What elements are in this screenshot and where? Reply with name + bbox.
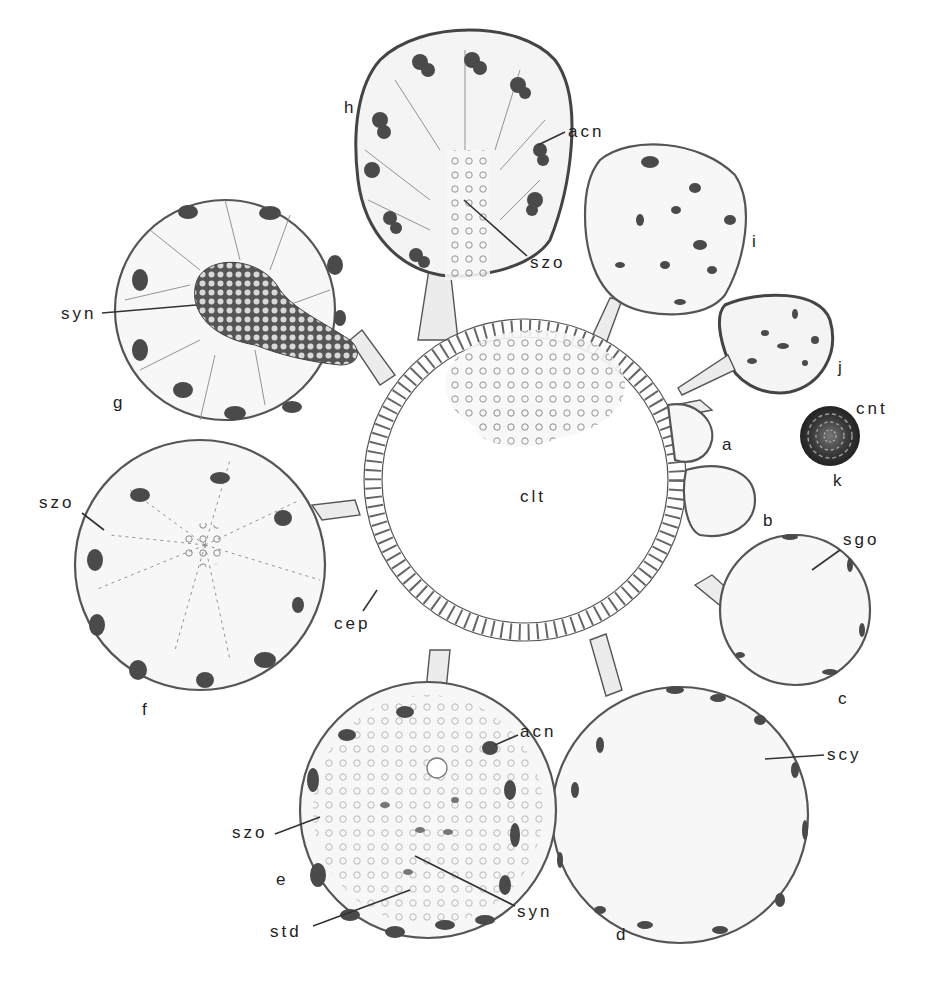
label-acn-e: acn — [520, 722, 556, 741]
label-lobe-g: g — [113, 393, 125, 412]
label-acn-h: acn — [568, 122, 604, 141]
label-syn-g: syn — [61, 304, 96, 323]
label-lobe-k: k — [833, 471, 845, 490]
label-syn-e: syn — [517, 902, 552, 921]
label-lobe-b: b — [763, 511, 775, 530]
lobe-f — [75, 440, 325, 690]
label-szo-h: szo — [530, 253, 565, 272]
label-lobe-f: f — [142, 700, 150, 719]
label-lobe-i: i — [752, 232, 759, 251]
label-szo-f: szo — [39, 493, 74, 512]
label-lobe-h: h — [344, 98, 356, 117]
label-lobe-d: d — [616, 925, 628, 944]
lobe-k — [800, 406, 860, 466]
label-cep: cep — [334, 614, 370, 633]
lobe-h — [356, 30, 572, 280]
histology-figure: h i j k a b c d e f g clt acn szo syn sz… — [0, 0, 931, 986]
lobe-g — [115, 200, 357, 420]
lobe-c — [720, 534, 870, 685]
lobe-i — [585, 144, 746, 314]
lobe-b — [684, 466, 755, 536]
label-lobe-e: e — [276, 870, 288, 889]
label-std: std — [270, 922, 302, 941]
label-szo-e: szo — [232, 823, 267, 842]
lobe-d — [552, 686, 808, 943]
central-lumen — [364, 319, 686, 641]
lobe-a — [668, 404, 712, 462]
label-cnt: cnt — [856, 399, 888, 418]
label-lobe-j: j — [837, 358, 845, 377]
label-lobe-a: a — [722, 435, 734, 454]
label-lobe-c: c — [838, 689, 850, 708]
lobe-e — [300, 682, 556, 938]
label-clt: clt — [520, 487, 546, 506]
label-scy: scy — [827, 745, 862, 764]
label-sgo: sgo — [843, 530, 879, 549]
